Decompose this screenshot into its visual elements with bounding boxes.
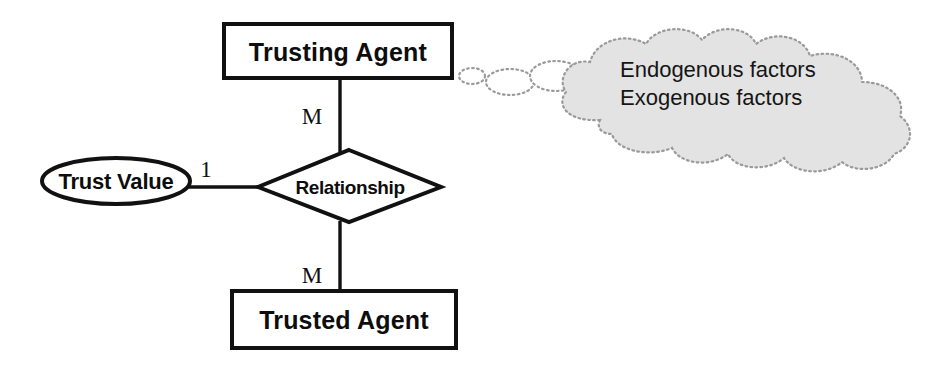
cloud-puff-small-icon <box>459 68 485 84</box>
cloud-puff-medium-icon <box>486 69 534 95</box>
cloud-group: Endogenous factors Exogenous factors <box>459 29 910 171</box>
relationship-label: Relationship <box>295 177 404 198</box>
entity-trusted-agent[interactable]: Trusted Agent <box>232 291 456 348</box>
relationship-diamond[interactable]: Relationship <box>258 150 441 222</box>
attribute-trust-value[interactable]: Trust Value <box>42 158 190 204</box>
er-diagram-canvas: Endogenous factors Exogenous factors Tru… <box>0 0 948 376</box>
cardinality-trusted-m: M <box>302 263 322 288</box>
cloud-line-1: Endogenous factors <box>620 57 816 82</box>
er-diagram-svg: Endogenous factors Exogenous factors Tru… <box>0 0 948 376</box>
entity-trusting-agent[interactable]: Trusting Agent <box>224 24 452 78</box>
cardinality-trusting-m: M <box>302 104 322 129</box>
trust-value-label: Trust Value <box>58 169 173 194</box>
cardinality-trustvalue-one: 1 <box>200 157 212 182</box>
trusting-agent-label: Trusting Agent <box>249 38 428 66</box>
cloud-line-2: Exogenous factors <box>620 85 802 110</box>
trusted-agent-label: Trusted Agent <box>259 306 429 334</box>
